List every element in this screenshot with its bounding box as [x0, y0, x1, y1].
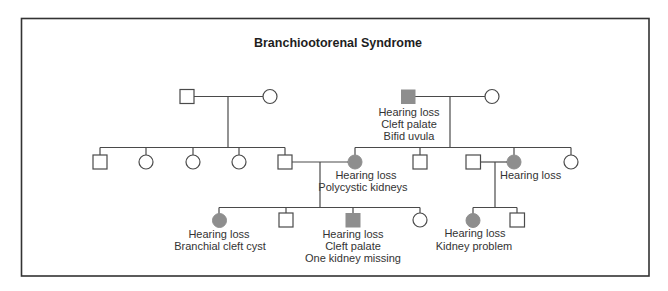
- gen3-right-children: Hearing loss Kidney problem: [436, 208, 525, 253]
- female-unaffected-icon: [139, 155, 153, 169]
- phenotype-label: Hearing loss: [500, 169, 562, 181]
- female-unaffected-icon: [263, 90, 277, 104]
- male-unaffected-icon: [413, 155, 427, 169]
- female-unaffected-icon: [564, 155, 578, 169]
- gen3-left-children: Hearing loss Branchial cleft cyst Hearin…: [174, 208, 427, 265]
- phenotype-label: Hearing loss: [322, 228, 384, 240]
- male-affected-icon: [346, 214, 360, 228]
- phenotype-label: Branchial cleft cyst: [174, 240, 266, 252]
- phenotype-label: Hearing loss: [335, 169, 397, 181]
- phenotype-label: Hearing loss: [444, 227, 506, 239]
- phenotype-label: Cleft palate: [325, 240, 381, 252]
- gen2-right-marriage: [466, 155, 507, 208]
- pedigree-diagram: Branchiootorenal Syndrome Hearing loss C…: [0, 0, 668, 291]
- phenotype-label: Kidney problem: [436, 240, 512, 252]
- female-affected-icon: [213, 214, 227, 228]
- male-unaffected-icon: [93, 155, 107, 169]
- male-unaffected-icon: [180, 90, 194, 104]
- gen1-right-couple: Hearing loss Cleft palate Bifid uvula: [378, 90, 499, 148]
- phenotype-label: Hearing loss: [378, 106, 440, 118]
- female-unaffected-icon: [413, 213, 427, 227]
- female-unaffected-icon: [232, 155, 246, 169]
- gen1-left-couple: [180, 90, 277, 148]
- phenotype-label: Bifid uvula: [384, 130, 436, 142]
- gen2-left-sibship: [93, 148, 292, 170]
- male-affected-icon: [402, 90, 416, 104]
- phenotype-label: Cleft palate: [381, 118, 437, 130]
- phenotype-label: One kidney missing: [305, 252, 401, 264]
- diagram-title: Branchiootorenal Syndrome: [254, 36, 422, 50]
- female-unaffected-icon: [186, 155, 200, 169]
- phenotype-label: Hearing loss: [188, 228, 250, 240]
- male-unaffected-icon: [278, 155, 292, 169]
- female-affected-icon: [507, 155, 521, 169]
- male-unaffected-icon: [279, 213, 293, 227]
- female-affected-icon: [348, 155, 362, 169]
- gen2-right-sibship: Hearing loss Polycystic kidneys Hearing …: [318, 148, 578, 194]
- male-unaffected-icon: [510, 213, 525, 227]
- female-affected-icon: [466, 214, 480, 228]
- female-unaffected-icon: [485, 90, 499, 104]
- male-unaffected-spouse-icon: [466, 155, 481, 169]
- phenotype-label: Polycystic kidneys: [318, 181, 408, 193]
